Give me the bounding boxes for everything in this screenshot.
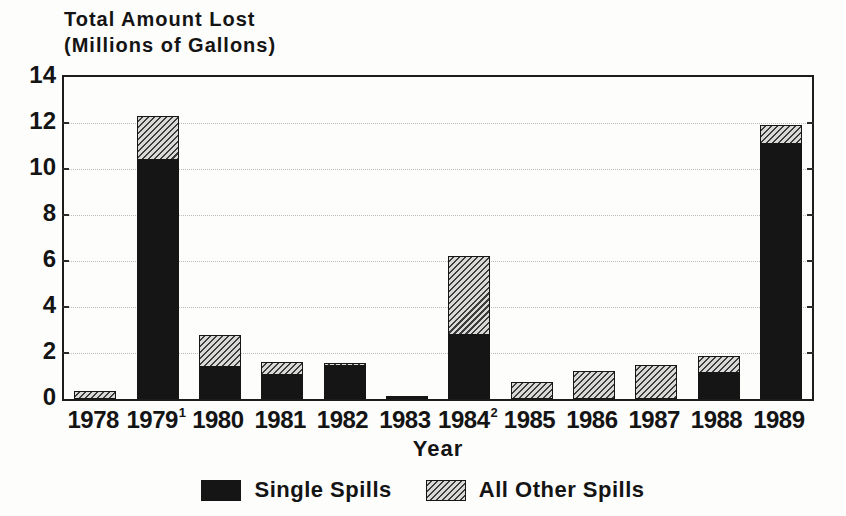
tick-tick-right-y12 bbox=[807, 122, 814, 124]
bar-1984-all-other-spills-segment bbox=[448, 256, 490, 334]
chart-figure: Total Amount Lost (Millions of Gallons) … bbox=[0, 0, 846, 516]
tick-tick-left-y6 bbox=[62, 260, 69, 262]
tick-tick-right-y10 bbox=[807, 168, 814, 170]
bar-1979 bbox=[137, 77, 179, 399]
bar-1987 bbox=[635, 77, 677, 399]
legend-label-single-spills: Single Spills bbox=[254, 477, 391, 503]
x-tick-label-1988: 1988 bbox=[691, 406, 742, 434]
bar-1988 bbox=[698, 77, 740, 399]
bar-1978 bbox=[74, 77, 116, 399]
bar-1984 bbox=[448, 77, 490, 399]
x-tick-label-1979: 19791 bbox=[126, 406, 184, 434]
x-tick-label-1978: 1978 bbox=[67, 406, 118, 434]
bar-1987-all-other-spills-segment bbox=[635, 365, 677, 400]
y-axis-labels: 02468101214 bbox=[0, 75, 56, 401]
bar-1979-single-spills-segment bbox=[137, 160, 179, 399]
bar-1982-all-other-spills-segment bbox=[324, 363, 366, 365]
bar-1981 bbox=[261, 77, 303, 399]
x-tick-label-1980: 1980 bbox=[192, 406, 243, 434]
x-tick-superscript-1979: 1 bbox=[179, 405, 186, 420]
legend-item-single-spills: Single Spills bbox=[201, 477, 391, 503]
bar-1986-all-other-spills-segment bbox=[573, 371, 615, 399]
bar-1978-all-other-spills-segment bbox=[74, 391, 116, 399]
bar-1980-all-other-spills-segment bbox=[199, 335, 241, 367]
bar-1985 bbox=[511, 77, 553, 399]
y-tick-label-4: 4 bbox=[43, 291, 56, 319]
bar-1983-all-other-spills-segment bbox=[386, 396, 428, 398]
bar-1979-all-other-spills-segment bbox=[137, 116, 179, 160]
y-tick-label-6: 6 bbox=[43, 245, 56, 273]
legend: Single Spills All Other Spills bbox=[0, 477, 846, 503]
tick-tick-left-y12 bbox=[62, 122, 69, 124]
tick-tick-right-y6 bbox=[807, 260, 814, 262]
bar-1981-single-spills-segment bbox=[261, 375, 303, 399]
bar-1981-all-other-spills-segment bbox=[261, 362, 303, 375]
y-tick-label-10: 10 bbox=[29, 153, 56, 181]
x-tick-label-1987: 1987 bbox=[628, 406, 679, 434]
all-other-spills-swatch-icon bbox=[426, 480, 466, 501]
single-spills-swatch-icon bbox=[201, 480, 241, 501]
x-tick-label-1986: 1986 bbox=[566, 406, 617, 434]
bar-1985-all-other-spills-segment bbox=[511, 382, 553, 399]
bar-1988-all-other-spills-segment bbox=[698, 356, 740, 372]
x-tick-label-1985: 1985 bbox=[504, 406, 555, 434]
x-tick-label-1982: 1982 bbox=[317, 406, 368, 434]
x-tick-label-1984: 19842 bbox=[438, 406, 496, 434]
tick-tick-left-y2 bbox=[62, 352, 69, 354]
bar-1982 bbox=[324, 77, 366, 399]
x-tick-superscript-1984: 2 bbox=[490, 405, 497, 420]
bar-1988-single-spills-segment bbox=[698, 373, 740, 399]
y-tick-label-12: 12 bbox=[29, 107, 56, 135]
legend-label-all-other-spills: All Other Spills bbox=[479, 477, 645, 503]
bar-1980 bbox=[199, 77, 241, 399]
y-tick-label-2: 2 bbox=[43, 337, 56, 365]
bar-1989-single-spills-segment bbox=[760, 144, 802, 399]
y-tick-label-14: 14 bbox=[29, 61, 56, 89]
chart-title: Total Amount Lost (Millions of Gallons) bbox=[64, 6, 276, 58]
bar-1986 bbox=[573, 77, 615, 399]
bar-1984-single-spills-segment bbox=[448, 335, 490, 399]
bar-1989 bbox=[760, 77, 802, 399]
tick-tick-left-y10 bbox=[62, 168, 69, 170]
chart-title-line1: Total Amount Lost bbox=[64, 6, 276, 32]
x-tick-label-1981: 1981 bbox=[254, 406, 305, 434]
bar-1980-single-spills-segment bbox=[199, 367, 241, 399]
bar-1989-all-other-spills-segment bbox=[760, 125, 802, 143]
y-tick-label-0: 0 bbox=[43, 383, 56, 411]
chart-title-line2: (Millions of Gallons) bbox=[64, 32, 276, 58]
plot-area bbox=[62, 75, 814, 401]
tick-tick-left-y4 bbox=[62, 306, 69, 308]
bar-1982-single-spills-segment bbox=[324, 366, 366, 399]
x-tick-label-1989: 1989 bbox=[753, 406, 804, 434]
tick-tick-right-y8 bbox=[807, 214, 814, 216]
bar-1983 bbox=[386, 77, 428, 399]
tick-tick-right-y2 bbox=[807, 352, 814, 354]
x-axis-title: Year bbox=[62, 436, 814, 462]
legend-item-all-other-spills: All Other Spills bbox=[426, 477, 645, 503]
x-tick-label-1983: 1983 bbox=[379, 406, 430, 434]
tick-tick-right-y4 bbox=[807, 306, 814, 308]
y-tick-label-8: 8 bbox=[43, 199, 56, 227]
x-axis-labels: 1978197911980198119821983198421985198619… bbox=[62, 406, 814, 436]
tick-tick-left-y8 bbox=[62, 214, 69, 216]
